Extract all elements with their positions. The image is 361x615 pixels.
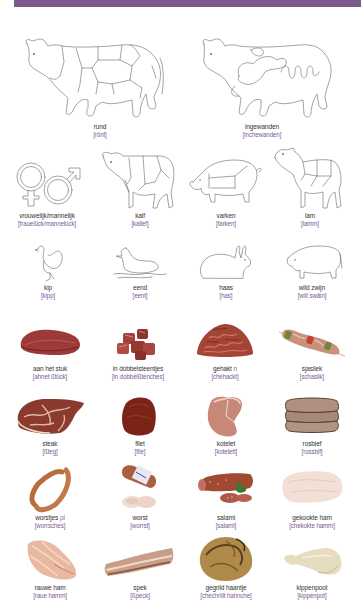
cooked-ham-icon <box>279 468 345 504</box>
word-label: kip <box>23 284 73 292</box>
pronunciation: [kallef] <box>114 220 167 228</box>
calf-icon <box>99 150 179 212</box>
pronunciation: [kippenpot] <box>284 592 340 600</box>
item-sjasliek: sjasliek [schaslik] <box>280 365 344 381</box>
cow-organs-icon <box>199 36 334 121</box>
item-filet: filet [file] <box>110 440 170 456</box>
item-gehakt: gehakt n [chehackt] <box>193 365 257 381</box>
word-label: aan het stuk <box>21 365 79 373</box>
pronunciation: [salami] <box>200 522 253 530</box>
pronunciation: [frauelück/mannelück] <box>13 220 82 228</box>
roastbeef-icon <box>283 395 341 435</box>
item-kippenpoot: kippenpoot [kippenpot] <box>280 584 344 600</box>
word-label: sjasliek <box>283 365 341 373</box>
word-label: lam <box>283 212 337 220</box>
word-label: steak <box>23 440 77 448</box>
word-label: eend <box>113 284 167 292</box>
meat-piece-icon <box>17 327 83 357</box>
item-haas: haas [has] <box>196 284 256 300</box>
raw-ham-icon <box>24 538 80 582</box>
pronunciation: [file] <box>114 448 167 456</box>
lamb-icon <box>273 146 348 212</box>
word-label: filet <box>113 440 167 448</box>
pronunciation: [has] <box>200 292 253 300</box>
item-vrouwelijk-mannelijk: vrouwelijk/mannelijk [frauelück/mannelüc… <box>8 212 86 228</box>
item-steak: steak [ßteg] <box>20 440 80 456</box>
pronunciation: [chehackt] <box>197 373 253 381</box>
sausage-icon <box>118 462 160 512</box>
word-label: worst <box>113 514 167 522</box>
grilled-chicken-icon <box>196 535 256 581</box>
duck-icon <box>112 244 168 280</box>
word-label: vrouwelijk/mannelijk <box>12 212 82 220</box>
item-spek: spek [ßpeck] <box>110 584 170 600</box>
meat-cubes-icon <box>115 325 159 361</box>
item-kip: kip [kipp] <box>20 284 76 300</box>
item-rauwe-ham: rauwe ham [raue hamm] <box>20 584 80 600</box>
chicken-icon <box>34 243 66 283</box>
item-wild-zwijn: wild zwijn [wilt swäin] <box>280 284 344 300</box>
item-varken: varken [farken] <box>196 212 256 228</box>
word-label: rauwe ham <box>23 584 77 592</box>
pronunciation: [ßteg] <box>24 448 77 456</box>
pronunciation: [chekokte hamm] <box>282 522 342 530</box>
hare-icon <box>197 244 257 282</box>
pronunciation: [farken] <box>200 220 253 228</box>
word-label: wild zwijn <box>283 284 341 292</box>
pronunciation: [rönt] <box>65 131 135 139</box>
item-worst: worst [worrst] <box>110 514 170 530</box>
item-kotelet: kotelet [kotelett] <box>196 440 256 456</box>
pronunciation: [chechrillt hahnche] <box>193 592 260 600</box>
word-label: haas <box>199 284 253 292</box>
item-salami: salami [salami] <box>196 514 256 530</box>
sausages-icon <box>26 466 72 514</box>
word-label: rosbief <box>283 440 341 448</box>
wild-boar-icon <box>284 244 344 280</box>
filet-icon <box>119 395 159 437</box>
pronunciation: [raue hamm] <box>24 592 77 600</box>
word-label: rund <box>64 123 136 131</box>
cutlet-icon <box>206 394 246 438</box>
word-label: gekookte ham <box>281 514 342 522</box>
steak-icon <box>14 395 86 437</box>
salami-icon <box>196 470 256 506</box>
pronunciation: [wilt swäin] <box>284 292 340 300</box>
word-label: kalf <box>113 212 167 220</box>
pronunciation: [rossbif] <box>284 448 340 456</box>
pronunciation: [inchewanden] <box>227 131 297 139</box>
pronunciation: [in dobbelßtenches] <box>101 373 175 381</box>
pronunciation: [worrst] <box>114 522 167 530</box>
item-worstjes: worstjes pl [worrsches] <box>20 514 80 530</box>
item-gekookte-ham: gekookte ham [chekokte hamm] <box>278 514 346 530</box>
word-label: salami <box>199 514 253 522</box>
header-band <box>14 0 361 7</box>
item-lam: lam [lamm] <box>280 212 340 228</box>
pronunciation: [ahnet ßtück] <box>22 373 78 381</box>
item-rosbief: rosbief [rossbif] <box>280 440 344 456</box>
item-aan-het-stuk: aan het stuk [ahnet ßtück] <box>18 365 82 381</box>
word-label: kippenpoot <box>283 584 341 592</box>
word-label: kotelet <box>199 440 253 448</box>
word-label: in dobbelsteentjes <box>100 365 176 373</box>
item-rund: rund [rönt] <box>60 123 140 139</box>
pronunciation: [schaslik] <box>284 373 340 381</box>
word-label: spek <box>113 584 167 592</box>
pronunciation: [ßpeck] <box>114 592 167 600</box>
pronunciation: [kotelett] <box>200 448 253 456</box>
minced-meat-icon <box>195 320 255 360</box>
word-label: ingewanden <box>226 123 298 131</box>
pronunciation: [lamm] <box>284 220 337 228</box>
item-ingewanden: ingewanden [inchewanden] <box>222 123 302 139</box>
word-label: worstjes pl <box>23 514 77 522</box>
item-kalf: kalf [kallef] <box>110 212 170 228</box>
word-label: gegrild haantje <box>192 584 260 592</box>
chicken-leg-icon <box>282 544 344 578</box>
item-gegrild-haantje: gegrild haantje [chechrillt hahnche] <box>188 584 264 600</box>
gender-symbols-icon <box>14 160 84 212</box>
item-eend: eend [eent] <box>110 284 170 300</box>
pig-icon <box>187 156 267 208</box>
cow-cuts-icon <box>22 36 167 121</box>
skewer-icon <box>277 326 347 360</box>
pronunciation: [worrsches] <box>24 522 77 530</box>
bacon-icon <box>102 544 176 578</box>
